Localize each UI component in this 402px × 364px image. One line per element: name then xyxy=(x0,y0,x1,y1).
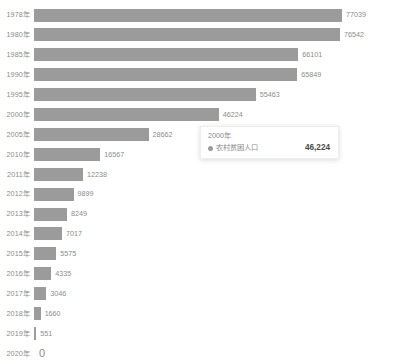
bar-value-label: 46224 xyxy=(223,111,243,118)
bar-value-label: 9899 xyxy=(78,190,94,197)
bar-value-label: 3046 xyxy=(50,290,66,297)
bar[interactable] xyxy=(34,48,298,61)
bar-row[interactable]: 2015年5575 xyxy=(0,246,402,262)
bar-track: 65849 xyxy=(34,67,402,83)
bar-value-label: 66101 xyxy=(302,51,322,58)
bar-row[interactable]: 2000年46224 xyxy=(0,107,402,123)
tooltip-marker-dot xyxy=(208,146,213,151)
bar-value-label: 8249 xyxy=(71,210,87,217)
category-label: 2016年 xyxy=(0,270,30,277)
bar-row[interactable]: 1990年65849 xyxy=(0,67,402,83)
category-label: 2010年 xyxy=(0,151,30,158)
bar-track: 4335 xyxy=(34,266,402,282)
bar-track: 1660 xyxy=(34,306,402,322)
bar-track: 77039 xyxy=(34,7,402,23)
bar-value-label: 55463 xyxy=(260,91,280,98)
bar-value-label: 1660 xyxy=(45,310,61,317)
category-label: 1995年 xyxy=(0,91,30,98)
bar-track: 9899 xyxy=(34,186,402,202)
bar-track: 55463 xyxy=(34,87,402,103)
chart-tooltip: 2000年 农村贫困人口 46,224 xyxy=(200,126,339,159)
bar-row[interactable]: 1985年66101 xyxy=(0,47,402,63)
bar-chart: 1978年770391980年765421985年661011990年65849… xyxy=(0,0,402,364)
bar-track: 0 xyxy=(34,345,402,361)
bar-row[interactable]: 1980年76542 xyxy=(0,27,402,43)
bar-track: 5575 xyxy=(34,246,402,262)
bar[interactable] xyxy=(34,168,83,181)
bar-row[interactable]: 2018年1660 xyxy=(0,306,402,322)
bar-value-label: 76542 xyxy=(344,31,364,38)
category-label: 2015年 xyxy=(0,250,30,257)
bar-value-label: 4335 xyxy=(55,270,71,277)
bar-row[interactable]: 1978年77039 xyxy=(0,7,402,23)
bar-track: 66101 xyxy=(34,47,402,63)
bar[interactable] xyxy=(34,307,41,320)
bar[interactable] xyxy=(34,9,342,22)
category-label: 1978年 xyxy=(0,11,30,18)
bar[interactable] xyxy=(34,68,297,81)
bar-row[interactable]: 2012年9899 xyxy=(0,186,402,202)
category-label: 2017年 xyxy=(0,290,30,297)
bar-row[interactable]: 2011年12238 xyxy=(0,166,402,182)
bar-value-label: 65849 xyxy=(301,71,321,78)
category-label: 1985年 xyxy=(0,51,30,58)
bar-row[interactable]: 2020年0 xyxy=(0,345,402,361)
bar-row[interactable]: 2019年551 xyxy=(0,325,402,341)
bar[interactable] xyxy=(34,287,46,300)
category-label: 2018年 xyxy=(0,310,30,317)
tooltip-series-label: 农村贫困人口 xyxy=(216,142,258,154)
bar-value-label: 551 xyxy=(40,330,52,337)
tooltip-value: 46,224 xyxy=(295,142,330,154)
tooltip-series-row: 农村贫困人口 46,224 xyxy=(208,142,330,154)
bar-track: 8249 xyxy=(34,206,402,222)
category-label: 2000年 xyxy=(0,111,30,118)
bar[interactable] xyxy=(34,227,62,240)
bar-row[interactable]: 2014年7017 xyxy=(0,226,402,242)
bar-row[interactable]: 2016年4335 xyxy=(0,266,402,282)
bar-row[interactable]: 1995年55463 xyxy=(0,87,402,103)
category-label: 2005年 xyxy=(0,131,30,138)
category-label: 2014年 xyxy=(0,230,30,237)
bar-track: 46224 xyxy=(34,107,402,123)
bar-value-label: 7017 xyxy=(66,230,82,237)
bar-value-label: 12238 xyxy=(87,171,107,178)
bar-value-label: 28662 xyxy=(153,131,173,138)
bar-row[interactable]: 2013年8249 xyxy=(0,206,402,222)
bar-value-label: 16567 xyxy=(104,151,124,158)
bar-row[interactable]: 2017年3046 xyxy=(0,286,402,302)
bar[interactable] xyxy=(34,128,149,141)
category-label: 2020年 xyxy=(0,350,30,357)
bar[interactable] xyxy=(34,88,256,101)
bar-track: 551 xyxy=(34,325,402,341)
bar[interactable] xyxy=(34,247,56,260)
bar-value-label: 0 xyxy=(39,348,45,359)
bar[interactable] xyxy=(34,28,340,41)
bar[interactable] xyxy=(34,208,67,221)
bar[interactable] xyxy=(34,148,100,161)
bar-track: 3046 xyxy=(34,286,402,302)
category-label: 2019年 xyxy=(0,330,30,337)
tooltip-title: 2000年 xyxy=(208,131,330,141)
bar[interactable] xyxy=(34,188,74,201)
bar[interactable] xyxy=(34,327,36,340)
bar[interactable] xyxy=(34,108,219,121)
category-label: 1990年 xyxy=(0,71,30,78)
category-label: 2012年 xyxy=(0,190,30,197)
category-label: 1980年 xyxy=(0,31,30,38)
bar-track: 12238 xyxy=(34,166,402,182)
bar-value-label: 77039 xyxy=(346,11,366,18)
bar-track: 76542 xyxy=(34,27,402,43)
bar-value-label: 5575 xyxy=(60,250,76,257)
category-label: 2011年 xyxy=(0,171,30,178)
category-label: 2013年 xyxy=(0,210,30,217)
bar-track: 7017 xyxy=(34,226,402,242)
bar[interactable] xyxy=(34,267,51,280)
